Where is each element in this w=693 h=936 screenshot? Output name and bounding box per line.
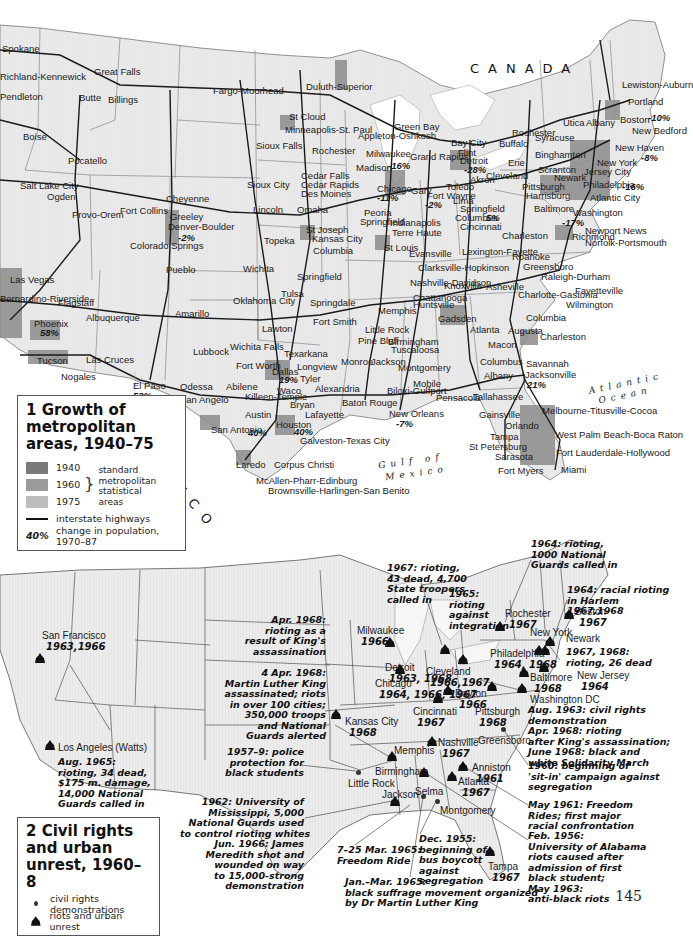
city-label: Little Rock (365, 325, 409, 335)
city-label: Utica (563, 118, 585, 128)
city-label: Milwaukee (357, 625, 404, 636)
city-label: Baltimore (534, 204, 574, 214)
city-label: Fort Myers (498, 466, 543, 476)
population-change-label: -16% (388, 161, 410, 171)
city-label: Cleveland (426, 666, 470, 677)
riot-icon (35, 653, 45, 663)
city-label: New Bedford (632, 126, 687, 136)
city-label: Springdale (310, 298, 355, 308)
city-label: Atlantic City (590, 193, 640, 203)
city-label: Las Cruces (86, 355, 134, 365)
annotation-dc-notes: Aug. 1963: civil rights demonstration Ap… (528, 705, 670, 768)
city-label: Portland (628, 97, 663, 107)
city-label: Sioux City (247, 180, 290, 190)
city-label: Charleston (502, 231, 548, 241)
city-label: Albuquerque (86, 313, 140, 323)
city-label: Binghamton (535, 150, 586, 160)
city-label: Chicago (375, 678, 412, 689)
riot-icon (458, 761, 468, 771)
city-label: Orlando (505, 421, 539, 431)
city-label: Albany (586, 118, 615, 128)
city-label: Flagstaff (58, 298, 94, 308)
city-label: San Angelo (180, 395, 229, 405)
city-label: Tampa (488, 861, 518, 872)
riot-icon (519, 667, 529, 677)
annotation-ole-miss-1962: 1962: University of Mississippi, 5,000 N… (180, 797, 304, 892)
city-label: Melbourne-Titusville-Cocoa (542, 406, 657, 416)
city-label: Des Moines (301, 189, 351, 199)
population-change-label: -10% (648, 113, 670, 123)
city-label: Harrisburg (526, 191, 570, 201)
city-label: Fargo-Moorhead (213, 86, 284, 96)
annotation-greensboro-1960: 1960: beginning of 'sit-in' campaign aga… (528, 761, 660, 793)
city-label: Longview (297, 362, 337, 372)
population-change-label: -2% (425, 200, 442, 210)
annotation-mlk-4apr-1968: 4 Apr. 1968: Martin Luther King assassin… (220, 668, 326, 742)
city-label: Cheyenne (166, 194, 209, 204)
city-label: Salt Lake City (20, 181, 79, 191)
city-label: Terre Haute (392, 228, 442, 238)
country-label-canada: CANADA (470, 61, 579, 76)
event-years-label: 1966 (361, 636, 389, 647)
city-label: Miami (561, 465, 586, 475)
city-label: Newark (554, 173, 586, 183)
city-label: Newport News (585, 226, 647, 236)
page-number: 145 (615, 888, 642, 904)
legend-row-1975: 1975 (26, 493, 80, 510)
annotation-harlem-1964: 1964: racial rioting in Harlem 1967,1968 (567, 585, 669, 617)
city-label: Columbia (526, 313, 566, 323)
population-change-label: -8% (641, 153, 658, 163)
city-label: Fort Smith (313, 317, 357, 327)
dot-icon (435, 799, 440, 804)
city-label: Columbia (313, 246, 353, 256)
city-label: Fort Collins (120, 206, 168, 216)
riot-icon (440, 644, 450, 654)
city-label: Little Rock (348, 778, 395, 789)
city-label: Boston (620, 115, 650, 125)
event-years-label: 1963,1966 (46, 641, 105, 652)
riot-icon (458, 654, 468, 664)
population-change-label: -16% (622, 182, 644, 192)
civil-rights-map: San Francisco1963,1966Los Angeles (Watts… (0, 525, 669, 928)
annotation-little-rock-1957: 1957–9: police protection for black stud… (196, 747, 304, 779)
population-change-label: 40% (248, 428, 267, 438)
city-label: Knoxville (444, 281, 482, 291)
city-label: Odessa (180, 382, 213, 392)
city-label: Nogales (61, 372, 96, 382)
city-label: Monroe (341, 357, 373, 367)
city-label: Boise (23, 132, 47, 142)
city-label: Brownsville-Harlingen-San Benito (268, 486, 410, 496)
riot-icon (427, 736, 437, 746)
riot-icon (447, 771, 457, 781)
city-label: Provo-Orem (72, 210, 124, 220)
city-label: Kansas City (312, 234, 363, 244)
city-label: Texarkana (284, 349, 328, 359)
city-label: Roanoke (512, 252, 550, 262)
city-label: Cleveland (486, 171, 528, 181)
annotation-chicago-apr-1968: Apr. 1968: rioting as a result of King's… (220, 615, 326, 657)
city-label: Pueblo (166, 265, 196, 275)
annotation-la-watts-1965: Aug. 1965: rioting, 34 dead, $175 m. dam… (58, 757, 151, 810)
city-label: Nashville (438, 737, 479, 748)
annotation-rochester-1964: 1964: rioting, 1000 National Guards call… (531, 539, 618, 571)
event-years-label: 1968 (349, 727, 377, 738)
city-label: Omaha (297, 205, 328, 215)
dot-icon (356, 770, 361, 775)
city-label: Cincinnati (460, 222, 502, 232)
city-label: Amarillo (175, 309, 209, 319)
city-label: Wichita Falls (230, 342, 284, 352)
map1-legend-title: 1 Growth of metropolitan areas, 1940–75 (26, 402, 177, 453)
dot-icon (34, 901, 38, 906)
annotation-newark-1967: 1967, 1968: rioting, 26 dead (566, 647, 652, 668)
riot-icon (487, 681, 497, 691)
city-label: Waco (277, 386, 301, 396)
city-label: Sarasota (495, 452, 533, 462)
city-label: Denver-Boulder (168, 222, 235, 232)
city-label: Duluth-Superior (306, 82, 373, 92)
city-label: Lincoln (253, 205, 283, 215)
riot-icon (433, 693, 443, 703)
population-change-label: 19% (279, 375, 298, 385)
city-label: Clarksville-Hopkinson (418, 263, 509, 273)
map2-legend-title: 2 Civil rights and urban unrest, 1960–8 (26, 823, 151, 891)
city-label: Alexandria (315, 384, 360, 394)
